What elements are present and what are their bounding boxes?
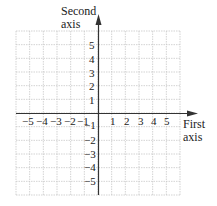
x-tick-label: 1 — [110, 116, 116, 127]
y-tick-label: 5 — [89, 40, 95, 51]
y-tick-label: 2 — [89, 81, 95, 92]
y-tick-label: −4 — [84, 162, 96, 173]
x-axis-arrow-icon — [187, 111, 198, 117]
x-axis-title: First axis — [183, 118, 205, 144]
y-tick-label: −5 — [84, 176, 96, 187]
y-tick-label: −2 — [84, 135, 96, 146]
x-tick-label: 5 — [164, 116, 170, 127]
y-axis-title-line2: axis — [61, 18, 96, 31]
axes — [16, 20, 192, 195]
x-tick-label: −4 — [36, 116, 48, 127]
x-tick-label: −3 — [50, 116, 62, 127]
x-tick-label: −5 — [22, 116, 34, 127]
coordinate-plane: Second axis First axis −5 −4 −3 −2 −1 1 … — [0, 0, 217, 206]
y-axis-arrow-icon — [96, 14, 102, 25]
x-tick-label: 4 — [151, 116, 157, 127]
y-tick-label: 3 — [89, 68, 95, 79]
y-tick-label: 4 — [89, 54, 95, 65]
x-axis-title-line2: axis — [183, 131, 205, 144]
grid-and-axes — [0, 0, 217, 206]
y-axis-title: Second axis — [61, 5, 96, 31]
y-tick-label: −1 — [84, 120, 96, 131]
x-tick-label: 2 — [124, 116, 130, 127]
y-tick-label: −3 — [84, 149, 96, 160]
y-tick-label: 1 — [89, 95, 95, 106]
x-tick-label: −2 — [64, 116, 76, 127]
x-tick-label: 3 — [138, 116, 144, 127]
